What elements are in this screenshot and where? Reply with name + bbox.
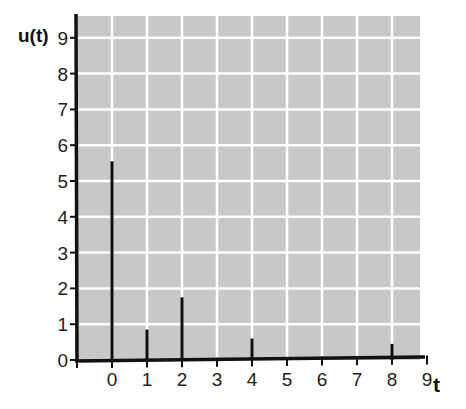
y-tick-label: 4	[57, 207, 68, 228]
x-tick-label: 6	[317, 369, 328, 390]
plot-area	[75, 16, 420, 360]
y-axis	[76, 14, 77, 362]
x-tick-label: 3	[212, 369, 223, 390]
y-tick-label: 3	[57, 243, 68, 264]
x-axis-title: t	[433, 373, 440, 396]
x-tick-label: 1	[142, 369, 153, 390]
y-tick-label: 0	[57, 350, 68, 371]
y-tick-label: 2	[57, 278, 68, 299]
y-tick-label: 5	[57, 171, 68, 192]
y-tick-label: 9	[57, 28, 68, 49]
y-tick-label: 8	[57, 64, 68, 85]
y-axis-ticks: 0123456789	[57, 28, 76, 371]
x-tick-label: 4	[247, 369, 258, 390]
y-tick-label: 1	[57, 314, 68, 335]
y-tick-label: 6	[57, 135, 68, 156]
y-tick-label: 7	[57, 99, 68, 120]
stem-chart: 0123456789 0123456789 u(t) t	[0, 0, 466, 409]
x-tick-label: 9	[422, 369, 433, 390]
x-tick-label: 0	[107, 369, 118, 390]
y-axis-title: u(t)	[18, 25, 49, 46]
x-tick-label: 8	[387, 369, 398, 390]
x-tick-label: 2	[177, 369, 188, 390]
x-tick-label: 7	[352, 369, 363, 390]
x-tick-label: 5	[282, 369, 293, 390]
